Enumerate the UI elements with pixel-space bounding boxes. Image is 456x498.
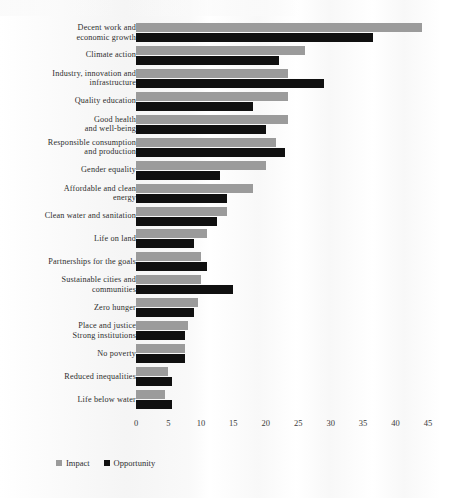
bar-opportunity xyxy=(136,377,172,386)
category-label: Life on land xyxy=(6,234,136,244)
x-axis-tick-label: 45 xyxy=(416,418,440,428)
category-label-line: Place and justice xyxy=(6,321,136,331)
x-axis-tick-label: 20 xyxy=(254,418,278,428)
category-label-line: economic growth xyxy=(6,33,136,43)
category-label-line: Decent work and xyxy=(6,23,136,33)
bar-opportunity xyxy=(136,262,207,271)
bar-group xyxy=(136,367,172,386)
x-axis-tick-label: 15 xyxy=(221,418,245,428)
bar-group xyxy=(136,298,198,317)
x-axis-tick-label: 5 xyxy=(156,418,180,428)
bar-opportunity xyxy=(136,308,194,317)
legend-swatch-icon xyxy=(56,460,62,466)
category-label-line: and well-being xyxy=(6,124,136,134)
bar-opportunity xyxy=(136,148,285,157)
bar-group xyxy=(136,23,422,42)
bar-impact xyxy=(136,69,288,78)
bar-group xyxy=(136,69,324,88)
bar-opportunity xyxy=(136,194,227,203)
category-label-line: Zero hunger xyxy=(6,303,136,313)
category-label: Gender equality xyxy=(6,165,136,175)
bar-impact xyxy=(136,298,198,307)
scan-artifact-top-strip xyxy=(0,0,456,16)
x-axis-tick-label: 0 xyxy=(124,418,148,428)
category-label: Decent work andeconomic growth xyxy=(6,23,136,42)
category-label-line: Partnerships for the goals xyxy=(6,257,136,267)
legend-item[interactable]: Opportunity xyxy=(104,458,156,468)
bar-impact xyxy=(136,344,185,353)
bar-impact xyxy=(136,207,227,216)
category-label: Life below water xyxy=(6,395,136,405)
bar-opportunity xyxy=(136,33,373,42)
category-label-line: Affordable and clean xyxy=(6,184,136,194)
category-label: Place and justiceStrong institutions xyxy=(6,321,136,340)
plot-area: Decent work andeconomic growthClimate ac… xyxy=(0,22,456,412)
legend-label: Impact xyxy=(66,458,90,468)
category-label-line: Good health xyxy=(6,115,136,125)
bar-group xyxy=(136,184,253,203)
category-label: Clean water and sanitation xyxy=(6,211,136,221)
bar-impact xyxy=(136,390,165,399)
category-label: Climate action xyxy=(6,50,136,60)
bar-group xyxy=(136,321,188,340)
category-label-line: Gender equality xyxy=(6,165,136,175)
category-label-line: communities xyxy=(6,285,136,295)
bar-impact xyxy=(136,23,422,32)
bar-impact xyxy=(136,252,201,261)
category-label-line: Sustainable cities and xyxy=(6,275,136,285)
bar-opportunity xyxy=(136,56,279,65)
bar-opportunity xyxy=(136,239,194,248)
x-axis-tick-label: 25 xyxy=(286,418,310,428)
category-label: Good healthand well-being xyxy=(6,115,136,134)
bar-impact xyxy=(136,229,207,238)
x-axis: 051015202530354045 xyxy=(0,418,456,434)
bar-group xyxy=(136,390,172,409)
bar-impact xyxy=(136,92,288,101)
bar-group xyxy=(136,115,288,134)
category-label-line: Climate action xyxy=(6,50,136,60)
bar-impact xyxy=(136,367,168,376)
category-label: Reduced inequalities xyxy=(6,372,136,382)
bar-impact xyxy=(136,321,188,330)
bar-opportunity xyxy=(136,285,233,294)
bar-impact xyxy=(136,275,201,284)
bar-group xyxy=(136,344,185,363)
bar-group xyxy=(136,275,233,294)
bar-opportunity xyxy=(136,102,253,111)
bar-impact xyxy=(136,46,305,55)
bar-group xyxy=(136,229,207,248)
category-label-line: Clean water and sanitation xyxy=(6,211,136,221)
category-label-line: and production xyxy=(6,147,136,157)
category-label-line: infrastructure xyxy=(6,78,136,88)
category-label: Partnerships for the goals xyxy=(6,257,136,267)
legend-item[interactable]: Impact xyxy=(56,458,90,468)
bar-impact xyxy=(136,138,276,147)
bar-group xyxy=(136,252,207,271)
category-label-line: energy xyxy=(6,193,136,203)
bar-opportunity xyxy=(136,217,217,226)
bar-opportunity xyxy=(136,171,220,180)
bar-opportunity xyxy=(136,125,266,134)
bar-impact xyxy=(136,115,288,124)
bar-impact xyxy=(136,184,253,193)
category-label: No poverty xyxy=(6,349,136,359)
bar-impact xyxy=(136,161,266,170)
category-label-line: Industry, innovation and xyxy=(6,69,136,79)
category-label: Sustainable cities andcommunities xyxy=(6,275,136,294)
bar-opportunity xyxy=(136,331,185,340)
x-axis-tick-label: 10 xyxy=(189,418,213,428)
category-label-line: Quality education xyxy=(6,96,136,106)
legend-label: Opportunity xyxy=(114,458,156,468)
category-label: Affordable and cleanenergy xyxy=(6,184,136,203)
category-label-line: Life on land xyxy=(6,234,136,244)
bar-group xyxy=(136,92,288,111)
legend-swatch-icon xyxy=(104,460,110,466)
bar-group xyxy=(136,138,285,157)
category-label-line: Reduced inequalities xyxy=(6,372,136,382)
bar-chart-figure: Decent work andeconomic growthClimate ac… xyxy=(0,0,456,498)
bar-group xyxy=(136,207,227,226)
bar-group xyxy=(136,161,266,180)
x-axis-tick-label: 35 xyxy=(351,418,375,428)
bar-opportunity xyxy=(136,79,324,88)
bar-opportunity xyxy=(136,354,185,363)
